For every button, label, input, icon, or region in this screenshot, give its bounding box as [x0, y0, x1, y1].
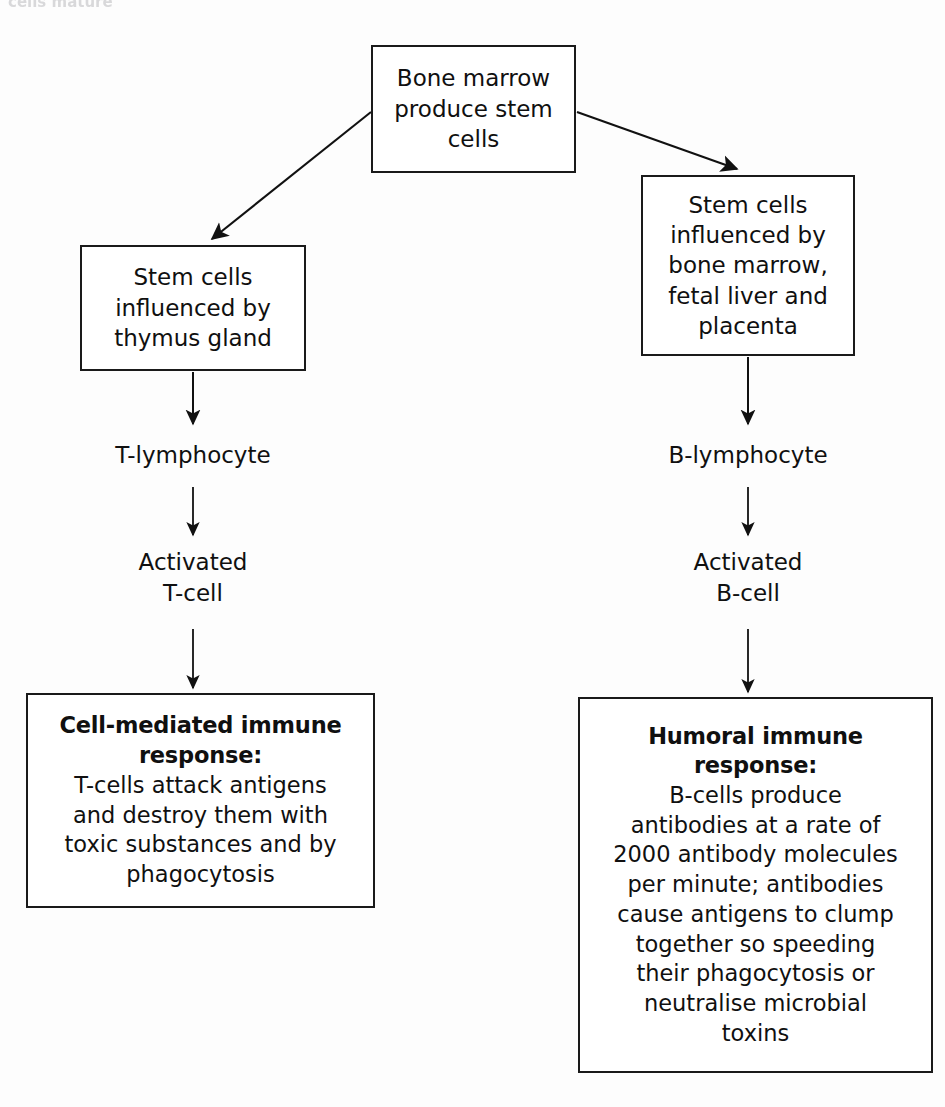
node-stem-cells-thymus: Stem cells influenced by thymus gland	[80, 245, 306, 371]
edge-bone-marrow-to-marrow-liver-placenta	[577, 112, 737, 169]
label-activated-b-cell-text: Activated B-cell	[694, 547, 803, 609]
immune-response-flowchart: cells mature	[0, 0, 945, 1107]
label-activated-t-cell: Activated T-cell	[80, 545, 306, 611]
node-bone-marrow-label: Bone marrow produce stem cells	[394, 63, 552, 154]
node-cell-mediated-heading: Cell-mediated immune response:	[59, 711, 341, 770]
node-cell-mediated-body: T-cells attack antigens and destroy them…	[64, 771, 336, 890]
node-stem-cells-marrow-liver-placenta-label: Stem cells influenced by bone marrow, fe…	[668, 190, 828, 342]
page-header-fragment: cells mature	[8, 0, 188, 7]
label-b-lymphocyte-text: B-lymphocyte	[668, 440, 827, 471]
node-humoral-immune-response: Humoral immune response: B-cells produce…	[578, 697, 933, 1073]
node-stem-cells-thymus-label: Stem cells influenced by thymus gland	[114, 262, 272, 353]
node-humoral-body: B-cells produce antibodies at a rate of …	[613, 781, 898, 1048]
label-activated-b-cell: Activated B-cell	[641, 545, 855, 611]
label-b-lymphocyte: B-lymphocyte	[641, 437, 855, 473]
label-t-lymphocyte: T-lymphocyte	[80, 437, 306, 473]
label-t-lymphocyte-text: T-lymphocyte	[115, 440, 270, 471]
node-bone-marrow: Bone marrow produce stem cells	[371, 45, 576, 173]
label-activated-t-cell-text: Activated T-cell	[139, 547, 248, 609]
edge-bone-marrow-to-thymus	[212, 112, 371, 239]
node-cell-mediated-immune-response: Cell-mediated immune response: T-cells a…	[26, 693, 375, 908]
node-humoral-heading: Humoral immune response:	[648, 722, 863, 781]
node-stem-cells-marrow-liver-placenta: Stem cells influenced by bone marrow, fe…	[641, 175, 855, 356]
